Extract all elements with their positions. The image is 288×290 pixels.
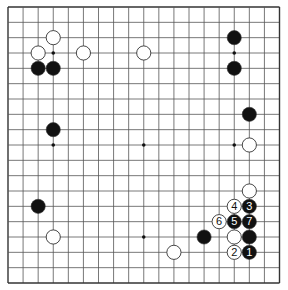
star-point: [142, 235, 146, 239]
stone-circle: [31, 199, 45, 213]
stone-circle: [76, 46, 90, 60]
stone-circle: [46, 230, 60, 244]
stone-circle: [46, 123, 60, 137]
move-number-label: 6: [216, 215, 222, 227]
go-board[interactable]: 4365721: [0, 0, 288, 290]
move-number-label: 7: [246, 215, 252, 227]
stone-circle: [31, 61, 45, 75]
black-stone[interactable]: [227, 31, 241, 45]
stone-circle: [227, 230, 241, 244]
black-stone[interactable]: [197, 230, 211, 244]
white-stone[interactable]: [46, 230, 60, 244]
black-stone[interactable]: [242, 107, 256, 121]
move-number-label: 2: [231, 246, 237, 258]
black-stone[interactable]: 3: [242, 199, 256, 213]
star-point: [51, 51, 55, 55]
move-number-label: 3: [246, 200, 252, 212]
black-stone[interactable]: 7: [242, 215, 256, 229]
stone-circle: [46, 61, 60, 75]
white-stone[interactable]: [242, 184, 256, 198]
move-number-label: 1: [246, 246, 252, 258]
black-stone[interactable]: [46, 123, 60, 137]
move-number-label: 4: [231, 200, 237, 212]
white-stone[interactable]: 2: [227, 245, 241, 259]
white-stone[interactable]: [137, 46, 151, 60]
black-stone[interactable]: [31, 61, 45, 75]
white-stone[interactable]: [76, 46, 90, 60]
white-stone[interactable]: [31, 46, 45, 60]
white-stone[interactable]: [227, 230, 241, 244]
stone-circle: [242, 107, 256, 121]
stone-circle: [227, 61, 241, 75]
stone-circle: [167, 245, 181, 259]
white-stone[interactable]: [46, 31, 60, 45]
white-stone[interactable]: 4: [227, 199, 241, 213]
star-point: [142, 143, 146, 147]
stone-circle: [31, 46, 45, 60]
white-stone[interactable]: [167, 245, 181, 259]
star-point: [232, 51, 236, 55]
black-stone[interactable]: [227, 61, 241, 75]
stone-circle: [227, 31, 241, 45]
black-stone[interactable]: [46, 61, 60, 75]
stone-circle: [46, 31, 60, 45]
black-stone[interactable]: 5: [227, 215, 241, 229]
star-point: [51, 143, 55, 147]
star-point: [232, 143, 236, 147]
black-stone[interactable]: 1: [242, 245, 256, 259]
black-stone[interactable]: [242, 230, 256, 244]
stone-circle: [242, 230, 256, 244]
stone-circle: [137, 46, 151, 60]
stone-circle: [197, 230, 211, 244]
white-stone[interactable]: 6: [212, 215, 226, 229]
white-stone[interactable]: [242, 138, 256, 152]
move-number-label: 5: [231, 215, 237, 227]
stone-circle: [242, 184, 256, 198]
stone-circle: [242, 138, 256, 152]
black-stone[interactable]: [31, 199, 45, 213]
